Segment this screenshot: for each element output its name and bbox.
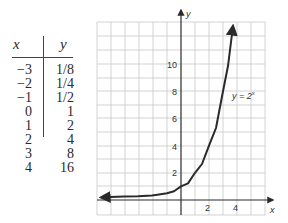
y-tick-label: 6	[172, 114, 177, 124]
exponential-graph: y x 2 4 2 4 6 8 10 y = 2x	[0, 0, 288, 223]
y-tick-label: 8	[172, 87, 177, 97]
x-tick-label: 2	[205, 203, 210, 213]
x-axis-label: x	[269, 205, 275, 215]
y-tick-label: 10	[167, 60, 177, 70]
y-tick-label: 4	[172, 142, 177, 152]
y-axis-label: y	[185, 9, 191, 19]
curve-label: y = 2x	[231, 90, 256, 101]
x-tick-label: 4	[233, 203, 238, 213]
y-tick-label: 2	[172, 168, 177, 178]
